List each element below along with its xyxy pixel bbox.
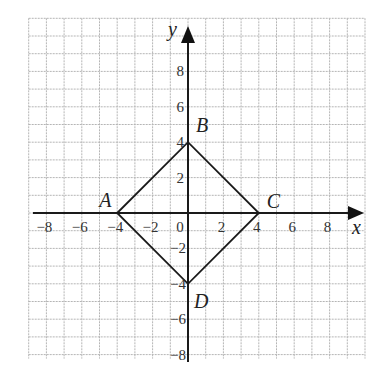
y-tick-label: −6 [170,311,186,327]
y-tick-label: −4 [170,276,186,292]
x-tick-label: 6 [288,219,296,235]
x-axis-label: x [351,216,361,238]
x-tick-label: −6 [72,219,88,235]
x-tick-label: −4 [107,219,123,235]
y-axis-arrow-icon [181,26,195,43]
y-tick-label: −8 [170,347,186,363]
y-tick-label: 8 [177,63,185,79]
coordinate-plane: −8−6−4−2024682468−2−4−6−8 ABCD x y [0,0,381,385]
y-axis-label: y [166,18,177,41]
x-tick-label: 0 [176,219,184,235]
y-tick-label: −2 [170,240,186,256]
vertex-label-d: D [193,290,209,312]
vertex-label-c: C [267,190,281,212]
y-tick-label: 4 [177,134,185,150]
x-tick-label: 2 [218,219,226,235]
x-tick-label: −2 [143,219,159,235]
vertex-label-a: A [97,189,112,211]
vertex-label-b: B [196,114,208,136]
y-tick-label: 6 [177,99,185,115]
x-tick-label: 8 [324,219,332,235]
y-tick-label: 2 [177,170,185,186]
x-tick-label: −8 [36,219,52,235]
x-tick-label: 4 [253,219,261,235]
